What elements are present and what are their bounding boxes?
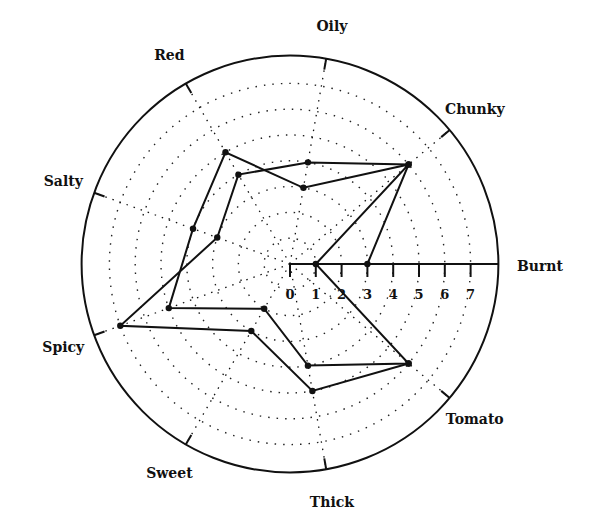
axis-line-tomato [290,264,448,397]
data-point [166,305,172,311]
scale-tick-label: 1 [311,287,320,302]
radar-axes [94,59,498,470]
data-point [405,161,411,167]
scale-tick-label: 5 [414,287,423,302]
axis-label-oily: Oily [316,18,348,34]
axis-tick-mark [94,332,104,336]
radar-chart: BurntChunkyOilyRedSaltySpicySweetThickTo… [0,0,596,526]
axis-tick-mark [441,391,449,398]
axis-label-spicy: Spicy [42,339,85,355]
data-point [405,360,411,366]
axis-tick-mark [186,435,192,445]
axis-label-thick: Thick [310,494,354,510]
data-point [300,185,306,191]
data-point [190,226,196,232]
axis-label-chunky: Chunky [445,101,505,117]
data-point [305,362,311,368]
data-point [117,323,123,329]
data-point [235,171,241,177]
axis-tick-mark [441,130,449,137]
axis-line-spicy [96,264,290,335]
axis-line-chunky [290,131,448,264]
scale-tick-label: 2 [337,287,346,302]
data-point [248,328,254,334]
axis-label-red: Red [154,47,185,63]
data-point [309,388,315,394]
scale-tick-label: 7 [466,287,475,302]
scale-tick-label: 0 [285,287,294,302]
scale-tick-label: 6 [440,287,449,302]
axis-tick-mark [186,83,192,93]
data-point [305,159,311,165]
axis-tick-mark [324,59,326,70]
axis-tick-mark [324,458,326,469]
axis-label-tomato: Tomato [446,411,504,427]
scale-ticks: 01234567 [285,264,475,302]
data-point [214,234,220,240]
axis-tick-mark [94,193,104,197]
scale-tick-label: 4 [389,287,398,302]
axis-label-salty: Salty [44,173,84,189]
series-line-1 [120,162,408,391]
series-line-2 [169,152,409,365]
data-point [222,149,228,155]
axis-label-sweet: Sweet [146,465,193,481]
axis-label-burnt: Burnt [517,258,564,274]
scale-tick-label: 3 [363,287,372,302]
data-point [261,305,267,311]
